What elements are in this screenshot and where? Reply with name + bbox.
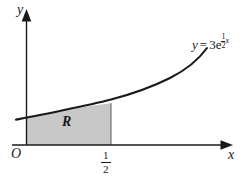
fraction-one-half: 1 2 [101, 150, 111, 175]
fraction-denominator: 2 [101, 164, 111, 176]
fraction-numerator: 1 [101, 150, 111, 162]
x-axis-label: x [228, 148, 234, 162]
curve-equation-label: y=3e12x [192, 33, 229, 51]
graph-canvas [0, 0, 247, 179]
x-tick-label-one-half: 1 2 [101, 150, 111, 175]
equation-lhs: y [192, 37, 198, 52]
region-label-r: R [62, 115, 71, 129]
exponent-variable: x [225, 36, 229, 45]
equation-exponent: 12x [221, 33, 229, 50]
exponential-curve-figure: y x O R 1 2 y=3e12x [0, 0, 247, 179]
equation-relation: = [198, 37, 209, 52]
y-axis-label: y [17, 3, 23, 17]
origin-label: O [11, 147, 21, 161]
